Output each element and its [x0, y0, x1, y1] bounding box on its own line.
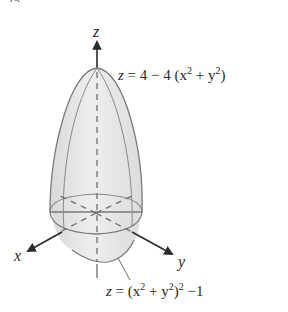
x-axis-label: x: [14, 248, 21, 264]
lower-surface-equation: z = (x2 + y2)2 −1: [106, 282, 204, 299]
upper-surface-equation: z = 4 − 4 (x2 + y2): [118, 66, 226, 83]
lower-equation-leader: [118, 258, 130, 280]
y-axis-label: y: [178, 254, 185, 270]
z-axis-label: z: [93, 24, 99, 40]
lower-surface: [52, 212, 140, 262]
paraboloid-solid-diagram: [0, 0, 288, 312]
y-axis: [132, 232, 172, 254]
x-axis: [28, 232, 62, 251]
